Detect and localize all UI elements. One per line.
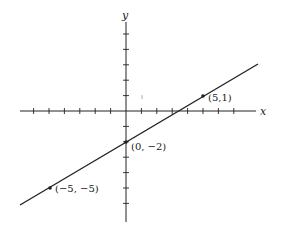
y-axis-label: y — [121, 9, 129, 22]
label-point-neg5-neg5: (−5, −5) — [55, 183, 99, 194]
point-neg5-neg5 — [48, 186, 52, 190]
x-axis-label: x — [260, 105, 267, 118]
label-point-5-1: (5,1) — [208, 92, 232, 103]
coordinate-plane: x y (−5, −5) (0, −2) (5,1) — [0, 0, 282, 231]
point-0-neg2 — [124, 140, 128, 144]
label-point-0-neg2: (0, −2) — [131, 141, 166, 152]
point-5-1 — [201, 94, 205, 98]
